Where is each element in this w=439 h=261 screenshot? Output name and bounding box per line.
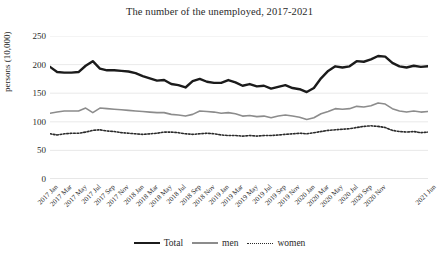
legend-item-men: men bbox=[192, 238, 238, 248]
x-tick-label: 2021 Jun bbox=[414, 183, 438, 207]
legend-line-women-icon bbox=[247, 239, 273, 247]
legend-item-total: Total bbox=[134, 238, 183, 248]
chart-legend: Total men women bbox=[0, 238, 439, 248]
legend-line-men-icon bbox=[192, 239, 218, 247]
legend-label-men: men bbox=[222, 238, 238, 248]
legend-item-women: women bbox=[247, 238, 305, 248]
x-axis-ticks: 2017 Jan2017 Mar2017 May2017 Jul2017 Sep… bbox=[0, 0, 439, 261]
legend-line-total-icon bbox=[134, 239, 160, 247]
legend-label-women: women bbox=[277, 238, 305, 248]
legend-label-total: Total bbox=[164, 238, 183, 248]
chart-figure: The number of the unemployed, 2017-2021 … bbox=[0, 0, 439, 261]
